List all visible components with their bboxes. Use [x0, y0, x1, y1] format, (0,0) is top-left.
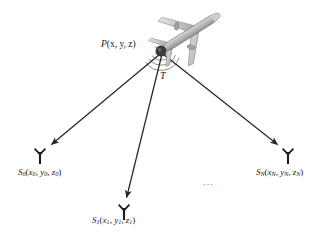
airplane-icon	[142, 0, 235, 77]
antenna-s1-right-arm	[124, 205, 129, 211]
antenna-sn-left-arm	[283, 149, 288, 155]
antenna-s0-right-arm	[40, 149, 45, 155]
antenna-sn-right-arm	[288, 149, 293, 155]
antenna-s0	[35, 149, 46, 164]
point-p-marker	[156, 46, 166, 56]
ray-to-sn	[163, 54, 278, 145]
point-p-coords: (x, y, z)	[107, 39, 136, 49]
ellipsis-label: ...	[203, 177, 214, 187]
angle-label-t: T	[160, 71, 166, 81]
sensor-label-s1: S1(x1, y1, z1)	[92, 216, 135, 225]
sensor-label-sn: SN(xN, yN, zN)	[256, 168, 303, 177]
sensor-label-s0: S0(x0, y0, z0)	[18, 168, 61, 177]
antenna-sn	[283, 149, 294, 164]
antenna-s0-left-arm	[35, 149, 40, 155]
point-p-label: P(x, y, z)	[101, 40, 136, 50]
antenna-s1-left-arm	[119, 205, 124, 211]
ray-to-s0	[52, 54, 161, 145]
tdoa-geometry-diagram	[0, 0, 336, 248]
angle-arc-1	[146, 58, 180, 71]
point-p-highlight	[158, 48, 161, 51]
